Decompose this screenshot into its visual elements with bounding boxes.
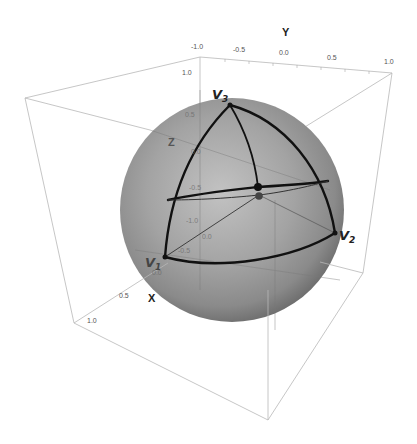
svg-text:1.0: 1.0: [384, 58, 394, 65]
vertex-v3-label: V3: [212, 87, 228, 104]
svg-text:-0.5: -0.5: [178, 247, 190, 254]
sphere-plot: -1.0 -0.5 0.0 0.5 1.0 Y 1.0 0.5 0.0 -0.5…: [0, 0, 417, 444]
svg-text:1.0: 1.0: [87, 317, 97, 324]
plot-canvas: -1.0 -0.5 0.0 0.5 1.0 Y 1.0 0.5 0.0 -0.5…: [0, 0, 417, 444]
unit-sphere: [120, 98, 344, 322]
svg-text:0.5: 0.5: [327, 54, 337, 61]
vertex-v2-point: [333, 231, 338, 236]
x-axis-label: X: [148, 292, 156, 304]
svg-text:0.5: 0.5: [119, 292, 129, 299]
svg-text:-1.0: -1.0: [191, 43, 203, 50]
y-axis-tick-labels: -1.0 -0.5 0.0 0.5 1.0: [191, 43, 394, 65]
vertex-v1-point: [163, 255, 168, 260]
z-axis-label: Z: [168, 136, 175, 148]
center-top-point: [254, 183, 262, 191]
svg-text:0.0: 0.0: [191, 148, 201, 155]
vertex-v2-label: V2: [339, 228, 355, 245]
y-axis-label: Y: [282, 26, 290, 38]
svg-text:0.0: 0.0: [202, 233, 212, 240]
svg-text:1.0: 1.0: [182, 69, 192, 76]
center-bottom-point: [255, 192, 263, 200]
svg-text:-0.5: -0.5: [233, 46, 245, 53]
svg-text:0.0: 0.0: [279, 49, 289, 56]
svg-text:-0.5: -0.5: [189, 184, 201, 191]
svg-text:-1.0: -1.0: [186, 217, 198, 224]
svg-text:0.5: 0.5: [185, 111, 195, 118]
